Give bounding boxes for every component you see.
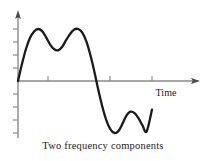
y-axis-ticks-upper [13, 29, 18, 68]
waveform-figure: Time [0, 0, 206, 161]
figure-caption: Two frequency components [0, 140, 206, 151]
x-axis-ticks [48, 76, 152, 81]
y-axis-ticks-lower [13, 94, 18, 133]
x-axis-label: Time [156, 87, 177, 98]
